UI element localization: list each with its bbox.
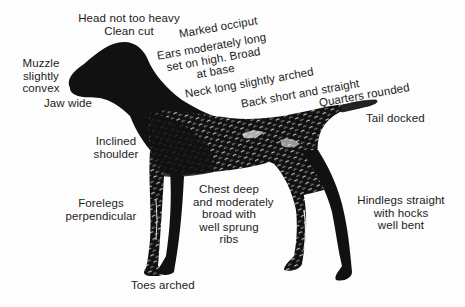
label-line: perpendicular [64,210,138,223]
label-line: Inclined [88,135,144,148]
label-jaw: Jaw wide [44,97,92,110]
label-shoulder: Inclined shoulder [88,135,144,160]
dog-conformation-diagram: Head not too heavy Clean cut Marked occi… [0,0,465,307]
label-line: Chest deep [193,183,265,196]
label-line: Jaw wide [44,97,92,110]
label-line: Clean cut [74,25,184,38]
label-head: Head not too heavy Clean cut [74,12,184,37]
label-line: slightly [18,70,64,83]
label-line: with hocks [357,207,445,220]
label-tail: Tail docked [366,112,425,125]
label-line: and moderately [193,196,265,209]
label-line: broad with [193,208,265,221]
label-chest: Chest deep and moderately broad with wel… [193,183,265,246]
label-line: shoulder [88,148,144,161]
label-line: Tail docked [366,112,425,125]
label-line: well sprung [193,221,265,234]
label-line: Head not too heavy [74,12,184,25]
label-line: Toes arched [131,279,195,292]
label-muzzle: Muzzle slightly convex [18,57,64,95]
label-hindlegs: Hindlegs straight with hocks well bent [357,194,445,232]
label-line: Muzzle [18,57,64,70]
label-line: convex [18,82,64,95]
label-line: Hindlegs straight [357,194,445,207]
label-toes: Toes arched [131,279,195,292]
label-line: well bent [357,219,445,232]
label-line: Forelegs [64,197,138,210]
label-line: ribs [193,233,265,246]
label-forelegs: Forelegs perpendicular [64,197,138,222]
